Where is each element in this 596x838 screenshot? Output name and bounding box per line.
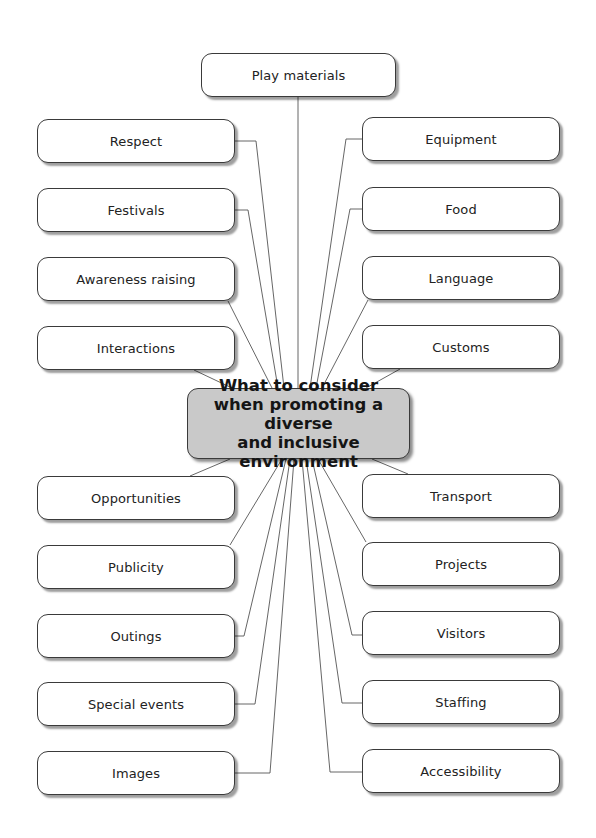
node-label: Special events [88,697,184,712]
node-projects[interactable]: Projects [362,542,560,586]
node-equipment[interactable]: Equipment [362,117,560,161]
node-publicity[interactable]: Publicity [37,545,235,589]
connector-outings [235,459,286,636]
node-language[interactable]: Language [362,256,560,300]
node-label: Equipment [425,132,496,147]
mind-map-diagram: Play materials RespectFestivalsAwareness… [0,0,596,838]
node-label: Interactions [97,341,176,356]
central-topic-line-2: when promoting a diverse [188,395,409,433]
connector-publicity [230,459,282,545]
node-label: Festivals [107,203,164,218]
node-interactions[interactable]: Interactions [37,326,235,370]
node-play-materials[interactable]: Play materials [201,53,396,97]
connector-equipment [310,139,362,388]
connector-special-events [235,459,290,704]
connector-accessibility [302,459,362,772]
connector-images [235,459,294,773]
node-staffing[interactable]: Staffing [362,680,560,724]
connector-respect [235,141,284,388]
connector-staffing [306,459,362,703]
node-label: Food [445,202,477,217]
node-label: Projects [435,557,487,572]
node-label: Opportunities [91,491,181,506]
node-food[interactable]: Food [362,187,560,231]
connector-visitors [312,459,362,635]
node-label: Images [112,766,160,781]
node-label: Accessibility [420,764,501,779]
node-label: Outings [110,629,161,644]
central-topic-line-3: and inclusive environment [188,433,409,471]
node-awareness-raising[interactable]: Awareness raising [37,257,235,301]
node-customs[interactable]: Customs [362,325,560,369]
node-respect[interactable]: Respect [37,119,235,163]
node-label: Respect [110,134,162,149]
connector-festivals [235,210,278,388]
node-label: Visitors [437,626,486,641]
central-topic-line-1: What to consider [219,376,378,395]
node-label: Transport [430,489,492,504]
node-transport[interactable]: Transport [362,474,560,518]
node-festivals[interactable]: Festivals [37,188,235,232]
connector-projects [318,459,366,542]
node-label: Language [429,271,494,286]
node-outings[interactable]: Outings [37,614,235,658]
node-special-events[interactable]: Special events [37,682,235,726]
node-images[interactable]: Images [37,751,235,795]
node-visitors[interactable]: Visitors [362,611,560,655]
node-label: Staffing [435,695,486,710]
node-accessibility[interactable]: Accessibility [362,749,560,793]
central-topic-box[interactable]: What to consider when promoting a divers… [187,388,410,459]
node-label: Awareness raising [76,272,195,287]
node-label: Play materials [252,68,346,83]
node-label: Customs [432,340,489,355]
connector-food [316,209,362,388]
node-opportunities[interactable]: Opportunities [37,476,235,520]
node-label: Publicity [108,560,164,575]
